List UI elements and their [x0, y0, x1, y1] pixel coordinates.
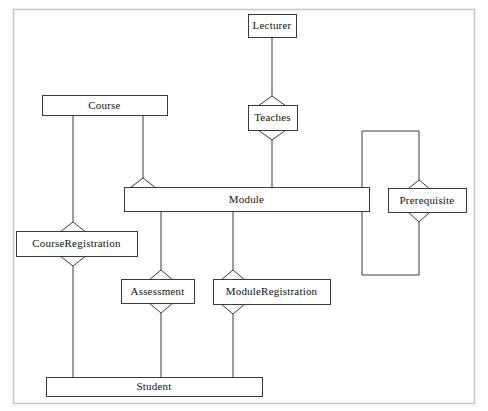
edge-course-courseregistration [60, 115, 86, 232]
edge-teaches-module [258, 130, 286, 187]
entity-box-student[interactable] [47, 378, 263, 397]
entity-box-lecturer[interactable] [249, 15, 297, 38]
entity-box-course-registration[interactable] [17, 232, 138, 257]
entity-box-module[interactable] [125, 188, 370, 212]
edge-lecturer-teaches [258, 37, 286, 106]
entity-box-module-registration[interactable] [214, 280, 331, 305]
edge-courseregistration-student [60, 256, 86, 377]
entity-box-prerequisite[interactable] [389, 189, 467, 213]
entity-box-assessment[interactable] [122, 280, 195, 304]
edge-assessment-student [149, 303, 173, 377]
edge-module-assessment [149, 211, 173, 280]
diagram-svg [0, 0, 488, 411]
edge-course-module [130, 115, 156, 188]
entity-box-course[interactable] [43, 96, 168, 116]
edge-moduleregistration-student [221, 304, 245, 377]
entity-box-teaches[interactable] [249, 106, 298, 131]
edge-module-moduleregistration [221, 211, 245, 280]
diagram-canvas: Lecturer Teaches Course Module Prerequis… [0, 0, 488, 411]
